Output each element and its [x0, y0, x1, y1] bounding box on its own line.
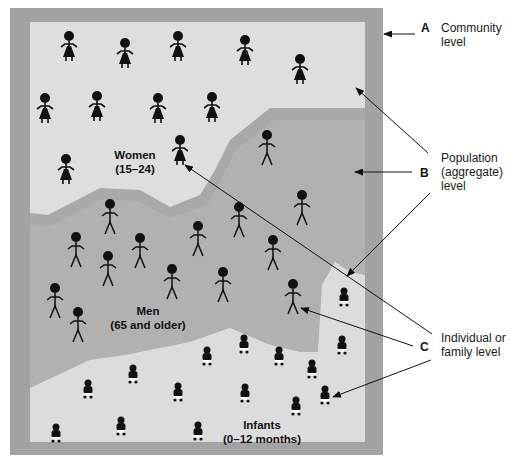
- infant-figure-icon: [51, 424, 60, 443]
- infant-figure-icon: [320, 386, 329, 405]
- annotation-c-line-2: family level: [441, 345, 506, 359]
- annotation-text-c: Individual or family level: [441, 331, 506, 359]
- annotation-b-line-1: Population: [441, 151, 503, 165]
- infant-figure-icon: [307, 360, 316, 379]
- annotation-c-line-1: Individual or: [441, 331, 506, 345]
- infant-figure-icon: [173, 383, 182, 402]
- infant-figure-icon: [274, 347, 283, 366]
- region-label-infants: Infants (0–12 months): [212, 418, 312, 446]
- infant-figure-icon: [202, 347, 211, 366]
- annotation-letter-b: B: [420, 166, 429, 180]
- annotation-a-line-1: Community: [441, 21, 502, 35]
- men-label-name: Men: [98, 304, 198, 318]
- infant-figure-icon: [128, 365, 137, 384]
- women-label-name: Women: [98, 148, 172, 162]
- annotation-a-line-2: level: [441, 35, 502, 49]
- diagram-canvas: [0, 0, 509, 468]
- annotation-b-line-3: level: [441, 179, 503, 193]
- infants-label-range: (0–12 months): [212, 432, 312, 446]
- annotation-b-line-2: (aggregate): [441, 165, 503, 179]
- infant-figure-icon: [193, 422, 202, 441]
- levels-of-practice-diagram: Women (15–24) Men (65 and older) Infants…: [0, 0, 509, 468]
- infant-figure-icon: [239, 335, 248, 354]
- annotation-letter-a: A: [421, 21, 430, 35]
- infant-figure-icon: [291, 397, 300, 416]
- infant-figure-icon: [116, 417, 125, 436]
- women-label-range: (15–24): [98, 162, 172, 176]
- region-label-men: Men (65 and older): [98, 304, 198, 332]
- region-label-women: Women (15–24): [98, 148, 172, 176]
- annotation-text-a: Community level: [441, 21, 502, 49]
- infant-figure-icon: [339, 288, 348, 307]
- men-label-range: (65 and older): [98, 318, 198, 332]
- infants-label-name: Infants: [212, 418, 312, 432]
- annotation-letter-c: C: [420, 340, 429, 354]
- infant-figure-icon: [337, 336, 346, 355]
- infant-figure-icon: [83, 380, 92, 399]
- annotation-text-b: Population (aggregate) level: [441, 151, 503, 193]
- infant-figure-icon: [240, 384, 249, 403]
